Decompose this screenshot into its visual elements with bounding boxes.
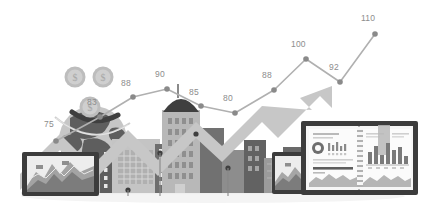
chart-marker: [303, 56, 309, 62]
chart-marker: [337, 79, 343, 85]
svg-text:$: $: [73, 72, 78, 83]
chart-label-8: 100: [291, 40, 306, 49]
svg-text:$: $: [101, 72, 106, 83]
chart-label-7: 88: [262, 71, 272, 80]
tablet-left: [22, 152, 99, 196]
chart-label-10: 110: [361, 14, 375, 23]
chart-marker: [372, 31, 378, 37]
chart-label-9: 92: [329, 63, 339, 72]
open-report: [301, 121, 418, 195]
report-page-right: [363, 125, 411, 187]
chart-marker: [198, 103, 204, 109]
chart-label-1: 75: [44, 120, 54, 129]
coin-1: $: [65, 67, 86, 88]
infographic-artwork: $ $ $: [0, 0, 426, 215]
coin-2: $: [93, 67, 114, 88]
chart-marker: [271, 87, 277, 93]
chart-label-4: 90: [155, 70, 165, 79]
chart-marker: [53, 138, 59, 144]
chart-label-2: 83: [87, 98, 97, 107]
chart-label-3: 88: [121, 79, 131, 88]
chart-marker: [130, 94, 136, 100]
chart-marker: [164, 86, 170, 92]
illustration-canvas: $ $ $: [0, 0, 426, 215]
building-dome: [163, 99, 199, 112]
report-page-left: [309, 129, 357, 187]
chart-label-5: 85: [189, 88, 199, 97]
chart-marker: [232, 110, 238, 116]
chart-label-6: 80: [223, 94, 233, 103]
chart-marker: [97, 114, 103, 120]
